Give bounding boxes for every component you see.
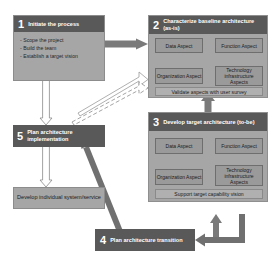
step-2-title: Characterize baseline architecture (as-i…: [163, 18, 263, 31]
arrow-step5-to-step2-dashed: [72, 82, 148, 125]
step-4-number: 4: [100, 235, 106, 246]
step-3-aspect-organization[interactable]: Organization Aspect: [155, 169, 203, 185]
step-1-bullet-list: - Scope the project - Build the team - E…: [14, 32, 104, 60]
step-1-number: 1: [18, 19, 24, 30]
step-3-footer: Support target capability vision: [155, 189, 263, 199]
step-1-header: 1 Initiate the process: [14, 16, 104, 32]
process-diagram: 1 Initiate the process - Scope the proje…: [0, 0, 280, 272]
step-3-title: Develop target architecture (to-be): [163, 119, 254, 126]
develop-individual-box[interactable]: Develop individual system/service: [13, 187, 105, 209]
step-1-bullet-2: - Establish a target vision: [20, 52, 99, 60]
step-1-bullet-1: - Build the team: [20, 44, 99, 52]
step-5-title: Plan architecture implementation: [27, 129, 101, 142]
step-1-bullet-0: - Scope the project: [20, 36, 99, 44]
step-2-header: 2 Characterize baseline architecture (as…: [149, 16, 267, 34]
step-5-number: 5: [17, 131, 23, 142]
step-3-aspect-technology[interactable]: Technology infrastructure Aspects: [215, 165, 263, 186]
arrow-step4-to-step3: [210, 214, 222, 239]
step-2-aspect-function[interactable]: Function Aspect: [215, 38, 263, 53]
step-3-number: 3: [153, 117, 159, 128]
step-2-aspect-organization[interactable]: Organization Aspect: [155, 68, 203, 84]
step-2-footer: Validate aspects with user survey: [155, 87, 263, 96]
step-3-box[interactable]: 3 Develop target architecture (to-be) Da…: [148, 112, 268, 202]
step-5-box[interactable]: 5 Plan architecture implementation: [13, 125, 105, 147]
step-3-aspect-data[interactable]: Data Aspect: [155, 138, 203, 154]
step-2-number: 2: [153, 20, 159, 31]
step-3-aspect-function[interactable]: Function Aspect: [215, 138, 263, 154]
step-4-title: Plan architecture transition: [110, 237, 182, 244]
step-1-box[interactable]: 1 Initiate the process - Scope the proje…: [13, 15, 105, 81]
step-4-box[interactable]: 4 Plan architecture transition: [95, 229, 195, 251]
arrow-step1-to-step2: [104, 39, 148, 50]
arrow-step4-to-step5: [79, 136, 121, 234]
step-2-aspect-data[interactable]: Data Aspect: [155, 38, 203, 53]
step-3-header: 3 Develop target architecture (to-be): [149, 113, 267, 131]
step-1-title: Initiate the process: [28, 21, 79, 28]
step-2-aspect-technology[interactable]: Technology infrastructure Aspects: [215, 66, 263, 86]
step-2-box[interactable]: 2 Characterize baseline architecture (as…: [148, 15, 268, 98]
